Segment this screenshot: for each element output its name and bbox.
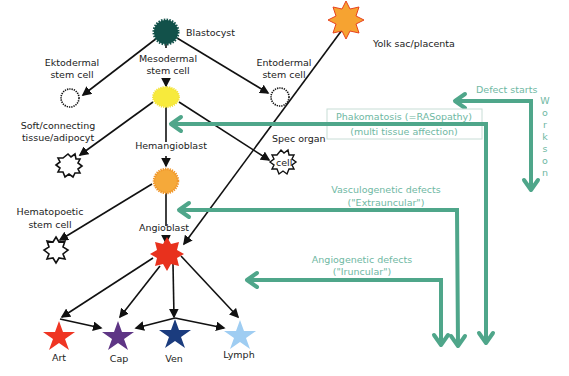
hematopoetic-cell-icon bbox=[44, 237, 68, 263]
arrow-angioblast-cap bbox=[120, 266, 160, 317]
label-entodermal-1: Entodermal bbox=[257, 57, 312, 68]
yolk-sac-star-icon bbox=[328, 1, 364, 39]
label-ven: Ven bbox=[165, 353, 183, 364]
label-multi-tissue: (multi tissue affection) bbox=[350, 126, 458, 137]
svg-text:s: s bbox=[543, 143, 548, 154]
entodermal-cell-icon bbox=[271, 88, 289, 106]
label-ektodermal-2: stem cell bbox=[50, 69, 93, 80]
label-angiogenetic-1: Angiogenetic defects bbox=[312, 254, 412, 265]
yolk-sac-node bbox=[328, 1, 364, 39]
angioblast-star-icon bbox=[150, 237, 184, 271]
svg-text:n: n bbox=[542, 167, 548, 178]
label-hematopoetic-1: Hematopoetic bbox=[17, 206, 84, 217]
label-angiogenetic-2: ("Iruncular") bbox=[333, 266, 392, 277]
blastocyst-node bbox=[154, 20, 178, 44]
ven-star-icon bbox=[159, 319, 191, 348]
arrow-blastocyst-entodermal bbox=[177, 38, 268, 93]
arrow-angioblast-art bbox=[62, 258, 153, 317]
soft-tissue-cell-icon bbox=[56, 154, 82, 177]
arrow-angioblast-lymph bbox=[181, 256, 238, 317]
lymph-star-icon bbox=[224, 320, 256, 349]
vessel-lymph bbox=[224, 320, 256, 349]
label-art: Art bbox=[52, 352, 66, 363]
label-lymph: Lymph bbox=[223, 349, 254, 360]
label-mesodermal-1: Mesodermal bbox=[139, 53, 197, 64]
label-spec-organ-2: cell bbox=[276, 157, 292, 168]
svg-text:k: k bbox=[542, 131, 548, 142]
label-entodermal-2: stem cell bbox=[262, 69, 305, 80]
arrow-art-cap bbox=[60, 319, 101, 328]
hemangioblast-node bbox=[154, 169, 178, 193]
arrow-ven-cap bbox=[136, 318, 175, 328]
entodermal-node bbox=[271, 88, 289, 106]
art-star-icon bbox=[43, 321, 75, 350]
blastocyst-core bbox=[155, 21, 177, 43]
ektodermal-node bbox=[61, 89, 79, 107]
soft-tissue-node bbox=[56, 154, 82, 177]
svg-text:r: r bbox=[543, 119, 547, 130]
hemangioblast-cell-icon bbox=[154, 169, 178, 193]
svg-text:o: o bbox=[542, 107, 548, 118]
phakomatosis-arrow bbox=[172, 124, 486, 342]
angioblast-node bbox=[150, 237, 184, 271]
svg-text:W: W bbox=[540, 95, 550, 106]
label-soft-1: Soft/connecting bbox=[21, 120, 96, 131]
vascular-development-diagram: Blastocyst Yolk sac/placenta Ektodermal … bbox=[0, 0, 569, 376]
vessel-art bbox=[43, 321, 75, 350]
label-defect-starts: Defect starts bbox=[476, 84, 537, 95]
mesodermal-cell-icon bbox=[153, 87, 179, 107]
label-ektodermal-1: Ektodermal bbox=[45, 57, 99, 68]
arrow-mesodermal-specorgan bbox=[179, 102, 269, 160]
label-spec-organ-1: Spec organ bbox=[272, 133, 326, 144]
label-vasculogenetic-1: Vasculogenetic defects bbox=[331, 184, 441, 195]
label-hemangioblast: Hemangioblast bbox=[135, 140, 207, 151]
label-vasculogenetic-2: ("Extrauncular") bbox=[348, 197, 425, 208]
label-mesodermal-2: stem cell bbox=[146, 65, 189, 76]
label-cap: Cap bbox=[110, 353, 129, 364]
label-hematopoetic-2: stem cell bbox=[28, 219, 71, 230]
mesodermal-node bbox=[153, 87, 179, 107]
cap-star-icon bbox=[102, 321, 134, 350]
works-on-vertical-label: W o r k s o n bbox=[540, 95, 550, 178]
vessel-cap bbox=[102, 321, 134, 350]
svg-text:o: o bbox=[542, 155, 548, 166]
label-phakomatosis: Phakomatosis (=RASopathy) bbox=[336, 111, 472, 122]
label-soft-2: tissue/adipocyt bbox=[22, 132, 95, 143]
label-blastocyst: Blastocyst bbox=[186, 27, 235, 38]
label-yolk-sac: Yolk sac/placenta bbox=[372, 38, 455, 49]
ektodermal-cell-icon bbox=[61, 89, 79, 107]
hematopoetic-node bbox=[44, 237, 68, 263]
angiogenetic-arrow bbox=[248, 280, 441, 344]
vessel-ven bbox=[159, 319, 191, 348]
vasculogenetic-arrow bbox=[180, 210, 458, 345]
arrow-angioblast-ven bbox=[173, 264, 174, 317]
label-angioblast: Angioblast bbox=[139, 222, 189, 233]
arrow-ven-lymph bbox=[175, 318, 224, 328]
